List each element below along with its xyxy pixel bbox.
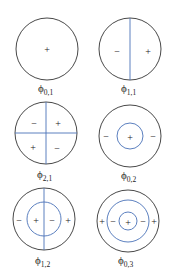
sign-center: + — [44, 44, 50, 55]
mode-label: ϕ1,1 — [121, 82, 136, 97]
sign-top-left: − — [31, 118, 37, 129]
mode-0-3: + − + − + ϕ0,3 — [97, 190, 159, 269]
mode-label: ϕ0,2 — [121, 169, 136, 184]
sign-outer-right: + — [65, 215, 71, 226]
sign-top-right: + — [55, 118, 61, 129]
sign-inner-right: − — [49, 215, 55, 226]
sign-outer-left: + — [99, 216, 105, 227]
sign-center: + — [125, 217, 131, 228]
mode-label: ϕ2,1 — [37, 168, 52, 183]
membrane-modes-diagram: + ϕ0,1 − + ϕ1,1 − + + − ϕ2,1 − + − ϕ0,2 … — [0, 0, 171, 279]
sign-center: + — [127, 132, 133, 143]
mode-1-2: − + − + ϕ1,2 — [13, 188, 75, 269]
mode-label: ϕ0,1 — [38, 82, 53, 97]
sign-outer-right: + — [151, 216, 157, 227]
sign-middle-right: − — [140, 216, 146, 227]
sign-right: + — [145, 46, 151, 57]
sign-bottom-left: + — [30, 142, 36, 153]
sign-inner-left: + — [33, 215, 39, 226]
sign-outer-left: − — [16, 215, 22, 226]
sign-bottom-right: − — [54, 143, 60, 154]
sign-outer-right: − — [150, 131, 156, 142]
mode-2-1: − + + − ϕ2,1 — [15, 102, 77, 183]
sign-outer-left: − — [103, 131, 109, 142]
mode-0-1: + ϕ0,1 — [16, 18, 78, 97]
sign-middle-left: − — [110, 216, 116, 227]
mode-0-2: − + − ϕ0,2 — [99, 105, 161, 184]
mode-label: ϕ0,3 — [118, 254, 133, 269]
sign-left: − — [114, 46, 120, 57]
mode-1-1: − + ϕ1,1 — [99, 18, 161, 97]
mode-label: ϕ1,2 — [35, 254, 50, 269]
